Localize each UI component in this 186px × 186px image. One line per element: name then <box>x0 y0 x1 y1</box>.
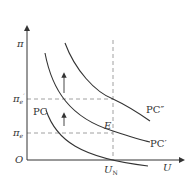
curve-label-pc: PC <box>33 106 48 117</box>
point-e-label: E <box>103 120 112 131</box>
guide-lines <box>27 40 113 160</box>
tick-label-natural-unemployment: UN <box>104 164 118 176</box>
curve-label-pc-prime: PC′ <box>150 138 167 149</box>
curve-pc-prime <box>45 53 150 142</box>
tick-label-expected-inflation-1: πe <box>12 127 24 139</box>
curve-pc <box>46 110 148 166</box>
phillips-curve-diagram: π U O πe′ πe UN E PC PC′ PC″ <box>0 0 186 186</box>
curves <box>45 43 150 166</box>
curve-pc-double-prime <box>65 43 150 121</box>
y-axis-label: π <box>16 38 24 49</box>
origin-label: O <box>15 154 23 165</box>
curve-label-pc-double-prime: PC″ <box>146 104 164 115</box>
tick-label-expected-inflation-2: πe′ <box>12 92 25 105</box>
x-axis-label: U <box>163 162 172 173</box>
